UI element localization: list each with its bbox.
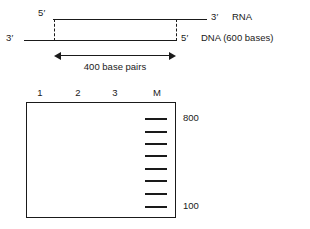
rna-strand-name-label: RNA [232, 11, 252, 22]
ladder-size-label-bottom: 100 [183, 200, 199, 211]
arrow-head-right-icon [169, 52, 176, 60]
rna-five-prime-label: 5′ [38, 7, 45, 18]
dna-strand-name-label: DNA (600 bases) [201, 32, 273, 43]
rna-strand-line [53, 19, 207, 20]
arrow-shaft [58, 55, 172, 56]
marker-band [145, 193, 167, 195]
marker-band [145, 131, 167, 133]
marker-band [145, 143, 167, 145]
marker-band [145, 155, 167, 157]
dna-three-prime-label: 3′ [6, 32, 13, 43]
marker-band [145, 206, 167, 208]
dna-five-prime-label: 5′ [181, 32, 188, 43]
ladder-size-label-top: 800 [183, 112, 199, 123]
hybrid-left-boundary-dashed-line [54, 19, 55, 41]
base-pair-span-label: 400 base pairs [54, 61, 176, 72]
gel-lane-label-marker: M [149, 87, 165, 98]
marker-band [145, 180, 167, 182]
marker-band [145, 168, 167, 170]
hybrid-right-boundary-dashed-line [176, 19, 177, 41]
figure-canvas: 5′ 3′ RNA 3′ 5′ DNA (600 bases) 400 base… [0, 0, 310, 229]
dna-strand-line [24, 40, 176, 41]
gel-lane-label-3: 3 [107, 87, 123, 98]
rna-three-prime-label: 3′ [211, 11, 218, 22]
base-pair-span-arrow [54, 50, 176, 61]
gel-lane-label-2: 2 [70, 87, 86, 98]
gel-lane-label-1: 1 [32, 87, 48, 98]
marker-band [145, 118, 167, 120]
